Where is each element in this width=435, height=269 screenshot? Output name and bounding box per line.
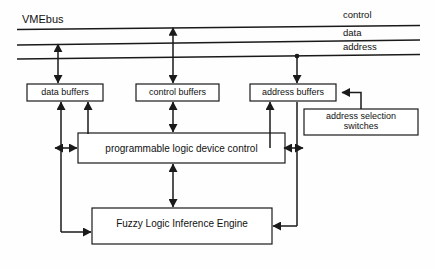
block-label-address-selection-switches-line1: address selection (326, 111, 396, 121)
block-label-programmable-logic-device-control: programmable logic device control (105, 143, 257, 154)
bus-line-address (17, 55, 420, 60)
bus-label-control: control (343, 9, 372, 20)
block-label-data-buffers: data buffers (41, 87, 89, 97)
block-label-control-buffers: control buffers (149, 87, 206, 97)
block-label-address-buffers: address buffers (262, 87, 324, 97)
block-diagram: VMEbus control data address data buffers… (0, 0, 435, 269)
diagram-title: VMEbus (22, 13, 64, 25)
block-label-address-selection-switches-line2: switches (344, 121, 379, 131)
bus-label-address: address (343, 41, 377, 52)
connector-address-selection-switches-to-address-buffers (342, 93, 361, 110)
block-label-fuzzy-logic-inference-engine: Fuzzy Logic Inference Engine (116, 218, 248, 229)
diagram-canvas: VMEbus control data address data buffers… (0, 0, 435, 269)
bus-label-data: data (343, 27, 362, 38)
